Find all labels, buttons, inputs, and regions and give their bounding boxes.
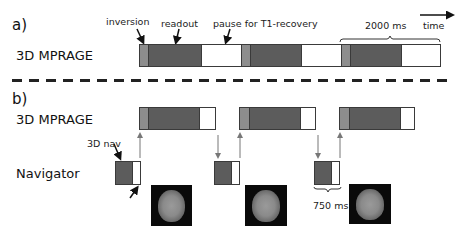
divider-dashed — [12, 79, 454, 82]
readout-arrow-icon — [176, 29, 179, 42]
navigator-block — [314, 161, 340, 185]
pause-arrow-icon — [226, 29, 230, 42]
segment-readout — [251, 45, 301, 66]
brace-2000ms-icon — [340, 36, 440, 42]
brain-mri-image — [349, 184, 391, 224]
row-label-mprage-b: 3D MPRAGE — [16, 112, 93, 127]
mprage-block — [339, 107, 415, 130]
annotation-3d-nav: 3D nav — [87, 138, 121, 149]
mprage-block — [139, 107, 216, 130]
mprage-block — [239, 107, 316, 130]
segment-inversion — [341, 45, 351, 66]
nav-pause-arrow-icon — [130, 188, 137, 198]
annotation-750ms: 750 ms — [313, 200, 348, 211]
brain-mri-image — [151, 185, 192, 226]
inversion-arrow-icon — [137, 29, 143, 42]
mprage-sequence-a — [139, 44, 441, 67]
segment-inversion — [140, 45, 149, 66]
section-label-b: b) — [12, 90, 27, 108]
segment-pause — [401, 45, 440, 66]
brace-750ms-icon — [314, 187, 341, 192]
segment-inversion — [241, 45, 251, 66]
segment-readout — [351, 45, 401, 66]
segment-pause — [201, 45, 241, 66]
segment-pause — [301, 45, 341, 66]
navigator-block — [214, 161, 240, 185]
navigator-block — [115, 161, 141, 185]
segment-readout — [149, 45, 201, 66]
brain-mri-image — [245, 185, 287, 226]
row-label-navigator: Navigator — [16, 166, 80, 181]
